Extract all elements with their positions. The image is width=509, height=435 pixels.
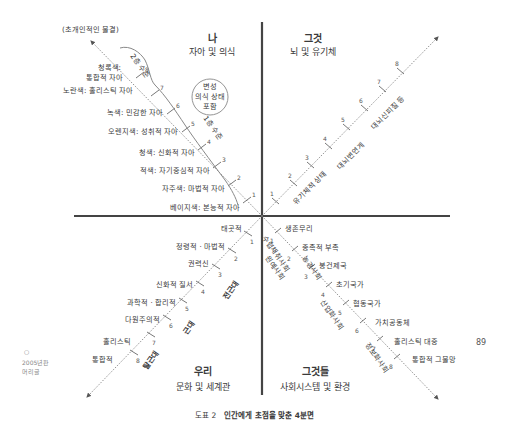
- organism-label: 유기체적 상태: [291, 169, 329, 207]
- svg-text:6: 6: [176, 102, 180, 109]
- neocortex-label: 대뇌신피질 등: [369, 94, 407, 132]
- quadrant-ll-subtitle: 문화 및 세계관: [176, 381, 230, 392]
- figure-caption: 도표 2 인간에게 초점을 맞춘 4분면: [195, 410, 314, 420]
- upper-right-ticks-rest: [290, 68, 404, 186]
- svg-text:변성: 변성: [203, 82, 217, 91]
- level-label: 홀리스틱: [103, 337, 131, 346]
- quadrant-ur-title: 그것: [304, 32, 322, 44]
- svg-text:2005년판: 2005년판: [22, 359, 49, 366]
- level-label: 가치공동체: [375, 318, 410, 327]
- level-label: 봉건제국: [319, 261, 347, 270]
- svg-text:8: 8: [136, 357, 140, 364]
- svg-text:4: 4: [201, 288, 205, 295]
- quadrant-ul-subtitle: 자아 및 의식: [189, 46, 235, 57]
- svg-text:6: 6: [355, 327, 359, 334]
- svg-text:3: 3: [218, 271, 222, 278]
- quadrant-lr-subtitle: 사회시스템 및 환경: [280, 381, 350, 392]
- svg-text:2: 2: [288, 172, 292, 179]
- level-label: 초기국가: [336, 280, 364, 289]
- tier-first-label: 1층 수준: [201, 114, 224, 142]
- level-label: 신화적 질서: [156, 280, 193, 289]
- quadrant-ul-title: 나: [208, 32, 218, 44]
- era-premodern: 전근대: [220, 278, 240, 301]
- svg-text:4: 4: [321, 291, 325, 298]
- upper-right-diagonal: [262, 38, 437, 216]
- level-label: 오렌지색: 성취적 자아: [108, 127, 178, 136]
- svg-text:7: 7: [152, 339, 156, 346]
- lower-left-eras: 전근대 근대 탈근대: [140, 278, 240, 371]
- svg-text:3: 3: [222, 156, 226, 163]
- caption-title: 인간에게 초점을 맞춘 4분면: [224, 410, 314, 420]
- svg-text:5: 5: [185, 305, 189, 312]
- level-label: 과학적 · 합리적: [127, 298, 176, 307]
- svg-text:3: 3: [304, 273, 308, 280]
- limbic-label: 대뇌변연계: [335, 140, 366, 171]
- svg-text:2: 2: [237, 174, 241, 181]
- svg-text:2: 2: [234, 255, 238, 262]
- level-label: 홀리스틱 대중: [394, 337, 438, 346]
- svg-text:포함: 포함: [203, 102, 217, 111]
- level-label: 종족적 부족: [302, 243, 339, 252]
- svg-text:3: 3: [305, 154, 309, 161]
- level-label: 다원주의적: [125, 315, 160, 324]
- circle-mark-icon: ○: [24, 348, 29, 355]
- level-label: 통합적: [92, 355, 113, 364]
- quadrant-ll-title: 우리: [194, 365, 212, 377]
- svg-text:5: 5: [341, 116, 345, 123]
- page-number: 89: [476, 338, 486, 347]
- svg-text:8: 8: [395, 60, 399, 67]
- svg-text:7: 7: [160, 84, 164, 91]
- svg-text:4: 4: [207, 138, 211, 145]
- level-label: 베이지색: 본능적 자아: [170, 203, 240, 212]
- upper-right-labels: 유기체적 상태 대뇌변연계 대뇌신피질 등: [291, 94, 407, 207]
- svg-text:1: 1: [252, 191, 256, 198]
- svg-text:6: 6: [359, 97, 363, 104]
- side-note: ○ 2005년판 머리글: [22, 348, 49, 376]
- svg-text:4: 4: [323, 135, 327, 142]
- level-label: 정령적 · 마법적: [176, 242, 225, 251]
- lower-left-labels: 태곳적 정령적 · 마법적 권력신 신화적 질서 과학적 · 합리적 다원주의적…: [92, 224, 242, 364]
- svg-text:머리글: 머리글: [22, 368, 40, 376]
- svg-text:7: 7: [377, 78, 381, 85]
- level-label: 자주색: 마법적 자아: [162, 184, 225, 193]
- lower-right-diagonal: [262, 216, 437, 398]
- level-label: 노란색: 홀리스틱 자아: [63, 86, 133, 95]
- top-note: (초개인적인 물결): [62, 25, 119, 34]
- level-label: 청록색:: [98, 63, 121, 72]
- svg-text:의식 상태: 의식 상태: [195, 92, 225, 101]
- svg-text:5: 5: [191, 120, 195, 127]
- era-modern: 근대: [180, 319, 196, 336]
- caption-prefix: 도표 2: [195, 411, 216, 420]
- level-label: 적색: 자기중심적 자아: [140, 166, 210, 175]
- upper-right-ticks: [272, 198, 279, 204]
- level-label: 생존무리: [285, 224, 313, 233]
- four-quadrant-diagram: 1 2 3 4 5 6 7 8 베이지색: 본능적 자아 자주색: 마법적 자아…: [0, 0, 509, 435]
- level-label: 통합적 그물망: [412, 355, 456, 364]
- level-label: 권력신: [188, 259, 209, 268]
- quadrant-ur-subtitle: 뇌 및 유기체: [290, 46, 336, 57]
- svg-text:6: 6: [169, 322, 173, 329]
- upper-right-numbers: 1 2 3 4 5 6 7 8: [270, 60, 399, 197]
- level-label: 협동국가: [353, 299, 381, 308]
- svg-text:1: 1: [250, 238, 254, 245]
- level-label: 청색: 신화적 자아: [139, 148, 195, 157]
- svg-text:1: 1: [270, 190, 274, 197]
- circle-note: 변성 의식 상태 포함: [195, 82, 225, 111]
- quadrant-lr-title: 그것들: [302, 365, 329, 377]
- era-postmodern: 탈근대: [140, 348, 160, 371]
- level-label: 태곳적: [221, 224, 242, 233]
- level-label: 녹색: 민감한 자아: [107, 108, 163, 117]
- level-label: 통합적 자아: [86, 73, 123, 82]
